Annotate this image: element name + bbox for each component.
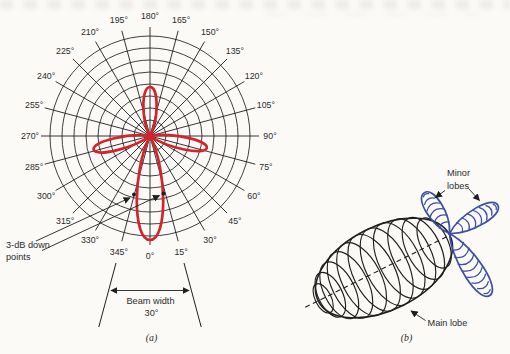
minor-lobe-rib — [425, 200, 441, 212]
minor-lobe-rib — [473, 208, 485, 225]
caption-b: (b) — [401, 332, 412, 344]
angle-label-90: 90° — [263, 131, 276, 141]
polar-spoke-150 — [150, 42, 205, 136]
beamwidth-label: Beam width — [126, 296, 174, 306]
polar-spoke-255 — [45, 108, 150, 136]
minor-lobes-arrow-right — [469, 189, 480, 201]
beamwidth-wedge-line-right — [184, 263, 201, 327]
beamwidth-wedge-line-left — [99, 263, 116, 327]
minor-lobe-rib — [479, 206, 490, 221]
angle-label-180: 180° — [141, 11, 159, 21]
angle-label-330: 330° — [81, 235, 99, 245]
angle-label-240: 240° — [37, 71, 55, 81]
polar-spoke-330 — [96, 136, 151, 230]
angle-label-255: 255° — [25, 100, 43, 110]
minor-lobe-rib — [484, 289, 492, 295]
angle-label-60: 60° — [247, 191, 260, 201]
minor-lobes-label-line2: lobes — [447, 181, 469, 191]
angle-label-195: 195° — [110, 15, 128, 25]
minor-lobes-label-line1: Minor — [447, 168, 470, 178]
three-db-point-right — [162, 192, 166, 196]
angle-label-150: 150° — [201, 27, 219, 37]
angle-label-75: 75° — [259, 162, 272, 172]
antenna-radiation-pattern-figure: 0°15°30°45°60°75°90°105°120°135°150°165°… — [0, 0, 510, 354]
minor-lobe-right — [445, 198, 502, 241]
angle-label-210: 210° — [81, 27, 99, 37]
caption-a: (a) — [146, 332, 157, 344]
angle-label-165: 165° — [172, 15, 190, 25]
angle-label-225: 225° — [56, 46, 74, 56]
angle-label-300: 300° — [37, 191, 55, 201]
polar-spoke-285 — [45, 136, 150, 164]
main-lobe-arrow — [411, 311, 426, 321]
angle-label-345: 345° — [110, 247, 128, 257]
minor-lobe-rib — [466, 267, 485, 281]
three-db-point-left — [132, 193, 136, 197]
textbook-figure-page: { "figure": { "panel_a": { "caption": "(… — [0, 0, 510, 354]
angle-label-135: 135° — [226, 46, 244, 56]
minor-lobe-rib — [462, 260, 481, 275]
polar-spoke-105 — [150, 108, 255, 136]
main-lobe-label: Main lobe — [428, 318, 468, 328]
angle-label-15: 15° — [174, 247, 187, 257]
angle-label-105: 105° — [257, 100, 275, 110]
polar-spoke-120 — [150, 82, 244, 137]
angle-label-270: 270° — [21, 131, 39, 141]
angle-label-285: 285° — [25, 162, 43, 172]
three-db-label-line1: 3-dB down — [6, 240, 50, 250]
three-db-label-line2: points — [6, 252, 31, 262]
angle-label-45: 45° — [228, 216, 241, 226]
angle-label-30: 30° — [203, 235, 216, 245]
polar-spoke-210 — [96, 42, 151, 136]
minor-lobe-rib — [471, 274, 487, 287]
angle-label-0: 0° — [146, 251, 154, 261]
minor-lobe-rib — [467, 212, 479, 229]
minor-lobe-rib — [428, 205, 445, 217]
beamwidth-value: 30° — [145, 308, 159, 318]
polar-spoke-240 — [56, 82, 150, 137]
minor-lobe-rib — [458, 253, 477, 268]
angle-label-120: 120° — [245, 71, 263, 81]
minor-lobes-arrow-left — [436, 191, 446, 198]
